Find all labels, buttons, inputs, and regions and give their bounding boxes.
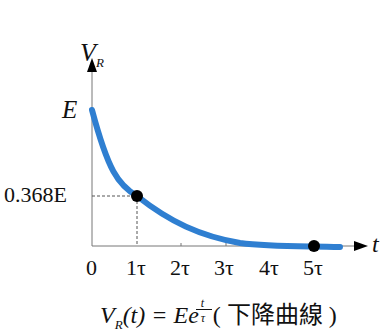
tick-0: 0: [86, 257, 97, 279]
tick-5tau: 5τ: [303, 257, 323, 279]
decay-curve: [92, 110, 340, 247]
x-axis-label: t: [372, 232, 379, 256]
tick-1tau: 1τ: [126, 257, 146, 279]
x-axis-arrow-icon: [354, 241, 368, 251]
formula: VR(t) = Eetτ( 下降曲線 ): [100, 303, 337, 331]
e368-label: 0.368E: [4, 184, 67, 206]
tick-3tau: 3τ: [214, 257, 234, 279]
tick-4tau: 4τ: [259, 257, 279, 279]
marker-5tau: [308, 240, 320, 252]
marker-1tau: [131, 190, 143, 202]
tick-2tau: 2τ: [170, 257, 190, 279]
e-label: E: [62, 97, 77, 122]
y-axis-label: VR: [80, 40, 104, 69]
